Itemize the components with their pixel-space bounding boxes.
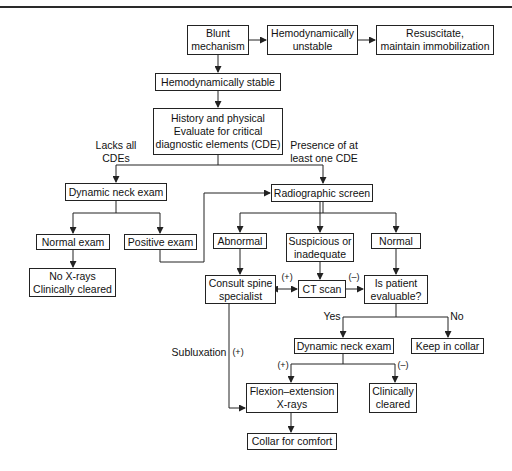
node-history-physical: History and physical Evaluate for critic… (153, 108, 283, 155)
node-collar-for-comfort: Collar for comfort (247, 433, 337, 450)
node-dynamic-neck-exam-1: Dynamic neck exam (65, 183, 167, 201)
node-hemodynamically-unstable: Hemodynamically unstable (267, 25, 358, 55)
node-normal: Normal (371, 233, 421, 249)
label-dyn-positive: (+) (276, 359, 290, 372)
node-hemodynamically-stable: Hemodynamically stable (155, 73, 281, 91)
node-no-xrays: No X-rays Clinically cleared (29, 268, 116, 297)
node-consult-spine: Consult spine specialist (205, 275, 276, 304)
node-suspicious: Suspicious or inadequate (286, 233, 354, 262)
node-blunt-mechanism: Blunt mechanism (187, 25, 249, 55)
label-subluxation-positive: (+) (231, 346, 245, 359)
node-flexion-extension: Flexion–extension X-rays (246, 383, 338, 413)
node-positive-exam: Positive exam (124, 234, 197, 250)
label-dyn-negative: (–) (397, 359, 409, 372)
label-ct-positive: (+) (280, 271, 294, 284)
label-lacks-all-cdes: Lacks all CDEs (92, 139, 140, 165)
node-radiographic-screen: Radiographic screen (271, 184, 373, 202)
node-dynamic-neck-exam-2: Dynamic neck exam (294, 338, 394, 354)
node-abnormal: Abnormal (213, 233, 267, 249)
node-normal-exam: Normal exam (36, 234, 110, 250)
node-clinically-cleared: Clinically cleared (369, 383, 417, 413)
node-ct-scan: CT scan (298, 280, 346, 298)
label-no: No (450, 310, 464, 323)
label-presence-cde: Presence of at least one CDE (286, 139, 362, 165)
label-yes: Yes (323, 310, 341, 323)
node-keep-in-collar: Keep in collar (411, 338, 484, 354)
label-subluxation: Subluxation (170, 346, 228, 359)
node-is-evaluable: Is patient evaluable? (364, 275, 428, 304)
label-ct-negative: (–) (348, 271, 360, 284)
node-resuscitate: Resuscitate, maintain immobilization (376, 25, 494, 55)
